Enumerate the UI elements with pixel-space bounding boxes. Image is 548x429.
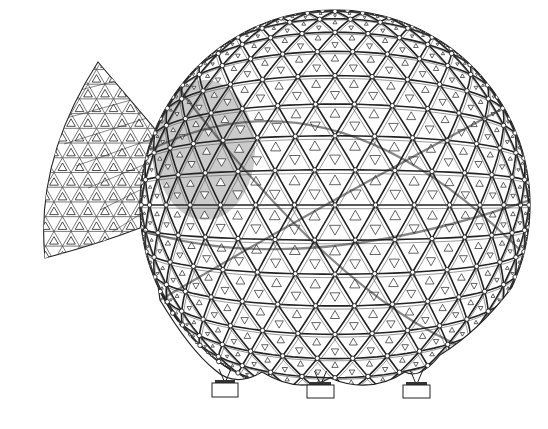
dome-illustration (0, 0, 548, 429)
pedestal-3 (403, 371, 430, 398)
geodesic-dome-drawing (0, 0, 548, 429)
geodesic-sphere (139, 8, 532, 402)
